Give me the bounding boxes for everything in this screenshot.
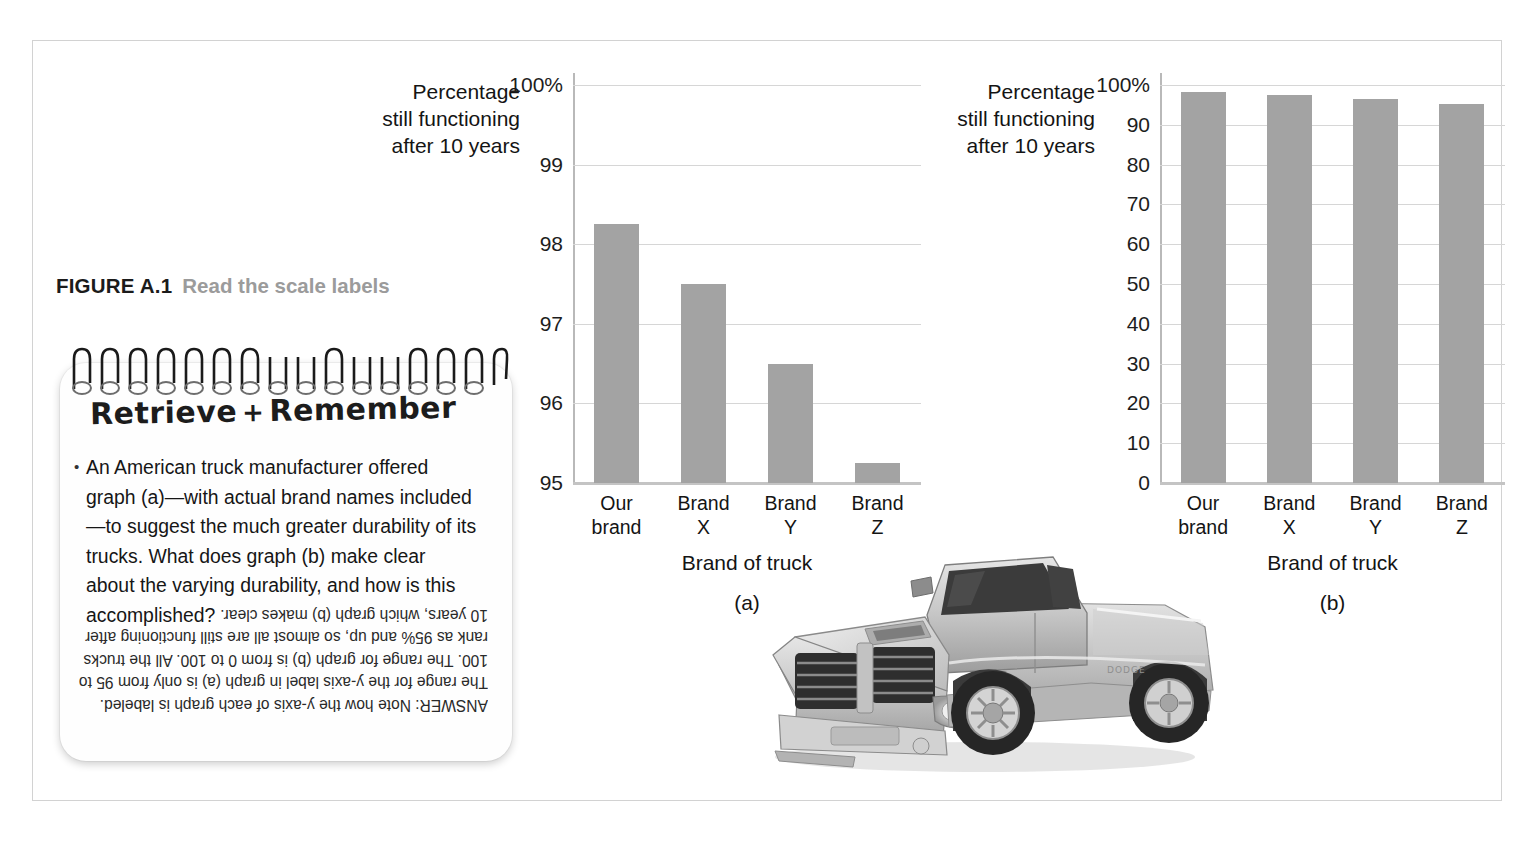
svg-text:DODGE: DODGE <box>1107 665 1146 675</box>
x-axis-tick-label-line: Brand <box>1419 491 1505 515</box>
x-axis-tick-label-line: Our <box>573 491 660 515</box>
x-axis-tick-label: Ourbrand <box>573 491 660 539</box>
y-axis-title-line: still functioning <box>380 105 520 132</box>
x-axis-tick-label-line: Brand <box>660 491 747 515</box>
x-axis-tick-label-line: Y <box>1333 515 1419 539</box>
bar <box>768 364 813 483</box>
figure-page: FIGURE A.1Read the scale labels <box>0 0 1529 842</box>
x-axis-tick-label-line: brand <box>573 515 660 539</box>
bar <box>594 224 639 483</box>
figure-title: Read the scale labels <box>182 274 389 297</box>
y-axis-tick-label: 100% <box>473 73 563 97</box>
y-axis-tick-label: 10 <box>1060 431 1150 455</box>
y-axis-tick-label: 60 <box>1060 232 1150 256</box>
y-axis-tick-label: 90 <box>1060 113 1150 137</box>
y-axis-tick-label: 98 <box>473 232 563 256</box>
x-axis-tick-label-line: Brand <box>1246 491 1332 515</box>
notepad-answer: ANSWER: Note how the y-axis of each grap… <box>76 603 488 716</box>
bar <box>681 284 726 483</box>
y-axis-tick-label: 97 <box>473 312 563 336</box>
x-axis-tick-label: BrandZ <box>1419 491 1505 539</box>
x-axis-tick-label: BrandY <box>1333 491 1419 539</box>
y-axis-tick-label: 0 <box>1060 471 1150 495</box>
gridline <box>573 85 921 86</box>
bar <box>1181 92 1226 483</box>
bar <box>855 463 900 483</box>
gridline <box>1160 85 1505 86</box>
x-axis-tick-label-line: Z <box>1419 515 1505 539</box>
bar <box>1439 104 1484 483</box>
y-axis-tick-label: 99 <box>473 153 563 177</box>
notepad-heading-plus: + <box>242 397 265 427</box>
truck-photo: DODGE Transtock/SuperStock <box>735 505 1240 780</box>
bar <box>1267 95 1312 483</box>
gridline <box>573 165 921 166</box>
figure-caption: FIGURE A.1Read the scale labels <box>56 274 390 298</box>
y-axis-tick-label: 40 <box>1060 312 1150 336</box>
y-axis-tick-label: 20 <box>1060 391 1150 415</box>
notepad-heading-left: Retrieve <box>90 394 238 432</box>
y-axis-tick-label: 50 <box>1060 272 1150 296</box>
y-axis-tick-label: 70 <box>1060 192 1150 216</box>
bar <box>1353 99 1398 483</box>
x-axis-tick-label: BrandX <box>1246 491 1332 539</box>
x-axis-tick-label: BrandX <box>660 491 747 539</box>
x-axis-tick-label-line: Brand <box>1333 491 1419 515</box>
x-axis-tick-label-line: X <box>660 515 747 539</box>
bullet-dot-icon: • <box>74 452 79 482</box>
y-axis-tick-label: 95 <box>473 471 563 495</box>
y-axis-tick-label: 100% <box>1060 73 1150 97</box>
y-axis-tick-label: 30 <box>1060 352 1150 376</box>
figure-label: FIGURE A.1 <box>56 274 172 297</box>
y-axis-tick-label: 96 <box>473 391 563 415</box>
y-axis-tick-label: 80 <box>1060 153 1150 177</box>
x-axis-tick-label-line: X <box>1246 515 1332 539</box>
